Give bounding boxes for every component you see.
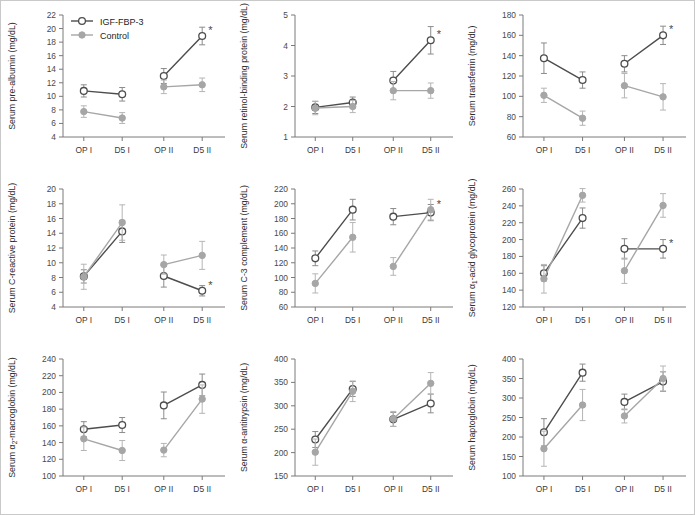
- y-tick-label: 14: [47, 64, 57, 74]
- series-line-segment: [624, 379, 663, 416]
- legend-marker-filled-circle: [79, 32, 85, 38]
- y-axis-title: Serum α-antitrypsin (mg/dL): [239, 363, 249, 472]
- series-igf-fbp-3: [80, 220, 205, 296]
- panel-pre-albumin: 46810121416182022OP ID5 IOP IID5 IISerum…: [1, 1, 233, 175]
- data-point-filled-circle: [312, 280, 318, 286]
- y-tick-label: 120: [274, 258, 288, 268]
- series-line-segment: [544, 58, 583, 80]
- chart-transferrin: 6080100120140160180OP ID5 IOP IID5 IISer…: [461, 1, 694, 175]
- x-tick-label-op-i: OP I: [307, 484, 324, 494]
- data-point-open-circle: [660, 32, 667, 39]
- series-line-segment: [164, 385, 202, 405]
- y-tick-label: 200: [274, 199, 288, 209]
- data-point-filled-circle: [81, 108, 87, 114]
- series-control: [541, 189, 667, 294]
- data-point-open-circle: [119, 422, 126, 429]
- data-point-filled-circle: [390, 87, 396, 93]
- panel-haptoglobin: 100150200250300350400OP ID5 IOP IID5 IIS…: [461, 345, 694, 514]
- series-line-segment: [393, 40, 430, 80]
- x-tick-label-op-i: OP I: [536, 484, 553, 494]
- y-tick-label: 12: [47, 243, 57, 253]
- y-tick-label: 300: [274, 401, 288, 411]
- y-tick-label: 6: [51, 287, 56, 297]
- series-line-segment: [164, 36, 202, 76]
- series-line-segment: [393, 403, 430, 419]
- y-tick-label: 60: [279, 302, 289, 312]
- y-tick-label: 16: [47, 214, 57, 224]
- y-tick-label: 260: [502, 184, 516, 194]
- y-tick-label: 100: [42, 471, 56, 481]
- y-tick-label: 250: [502, 413, 516, 423]
- legend-label-igf-fbp-3: IGF-FBP-3: [100, 17, 144, 27]
- data-point-filled-circle: [390, 263, 396, 269]
- x-tick-label-d5-ii: D5 II: [654, 145, 672, 155]
- data-point-filled-circle: [350, 103, 356, 109]
- x-tick-label-op-ii: OP II: [384, 484, 403, 494]
- data-point-filled-circle: [119, 447, 125, 453]
- data-point-open-circle: [160, 73, 167, 80]
- y-tick-label: 240: [502, 201, 516, 211]
- data-point-filled-circle: [660, 375, 666, 381]
- data-point-filled-circle: [621, 413, 627, 419]
- data-point-filled-circle: [541, 276, 547, 282]
- series-line-segment: [544, 195, 583, 278]
- data-point-filled-circle: [350, 388, 356, 394]
- series-line-segment: [164, 276, 202, 291]
- y-tick-label: 200: [502, 432, 516, 442]
- series-line-segment: [84, 112, 122, 118]
- data-point-filled-circle: [199, 252, 205, 258]
- data-point-filled-circle: [660, 94, 666, 100]
- series-line-segment: [315, 210, 352, 259]
- y-tick-label: 1: [283, 132, 288, 142]
- x-tick-label-d5-ii: D5 II: [654, 315, 672, 325]
- y-tick-label: 160: [502, 268, 516, 278]
- y-tick-label: 240: [42, 354, 56, 364]
- y-tick-label: 18: [47, 37, 57, 47]
- data-point-open-circle: [119, 91, 126, 98]
- data-point-filled-circle: [428, 380, 434, 386]
- series-line-segment: [624, 35, 663, 63]
- series-igf-fbp-3: [541, 364, 667, 446]
- data-point-open-circle: [660, 245, 667, 252]
- x-tick-label-d5-i: D5 I: [115, 145, 130, 155]
- y-axis-title: Serum α2-macroglobin (mg/dL): [7, 357, 18, 478]
- series-control: [81, 78, 206, 123]
- data-point-filled-circle: [428, 206, 434, 212]
- series-line-segment: [393, 383, 430, 419]
- y-tick-label: 140: [274, 243, 288, 253]
- series-line-segment: [164, 85, 202, 87]
- series-line-segment: [84, 425, 122, 429]
- y-tick-label: 150: [502, 452, 516, 462]
- x-tick-label-op-i: OP I: [307, 145, 324, 155]
- x-tick-label-d5-ii: D5 II: [193, 484, 211, 494]
- y-tick-label: 250: [274, 424, 288, 434]
- y-tick-label: 140: [42, 438, 56, 448]
- chart-alpha2-macroglobin: 100120140160180200220240OP ID5 IOP IID5 …: [1, 345, 233, 514]
- chart-haptoglobin: 100150200250300350400OP ID5 IOP IID5 IIS…: [461, 345, 694, 514]
- x-tick-label-d5-ii: D5 II: [193, 315, 211, 325]
- series-igf-fbp-3: [312, 27, 434, 114]
- x-tick-label-op-ii: OP II: [615, 484, 634, 494]
- y-tick-label: 200: [274, 448, 288, 458]
- y-tick-label: 220: [42, 371, 56, 381]
- series-line-segment: [624, 86, 663, 97]
- y-axis-title: Serum C-reactive protein (mg/dL): [7, 183, 17, 314]
- data-point-filled-circle: [541, 446, 547, 452]
- series-control: [312, 81, 434, 114]
- data-point-filled-circle: [312, 449, 318, 455]
- data-point-filled-circle: [199, 396, 205, 402]
- y-axis-title: Serum haptoglobin (mg/dL): [467, 364, 477, 471]
- data-point-filled-circle: [350, 234, 356, 240]
- x-tick-label-op-ii: OP II: [384, 145, 403, 155]
- y-tick-label: 180: [502, 10, 516, 20]
- x-tick-label-d5-ii: D5 II: [422, 315, 440, 325]
- significance-asterisk: *: [437, 198, 442, 210]
- y-axis-title: Serum C-3 complement (mg/dL): [239, 185, 249, 311]
- x-tick-label-op-ii: OP II: [154, 315, 173, 325]
- y-tick-label: 10: [47, 258, 57, 268]
- y-tick-label: 8: [51, 105, 56, 115]
- data-point-open-circle: [621, 60, 628, 67]
- x-tick-label-d5-i: D5 I: [115, 315, 130, 325]
- significance-asterisk: *: [208, 24, 213, 36]
- figure-frame: 46810121416182022OP ID5 IOP IID5 IISerum…: [0, 0, 695, 515]
